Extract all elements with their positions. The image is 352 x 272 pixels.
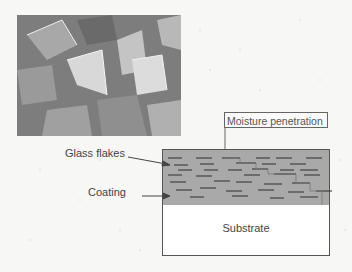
flakes-and-arrows (0, 0, 352, 272)
